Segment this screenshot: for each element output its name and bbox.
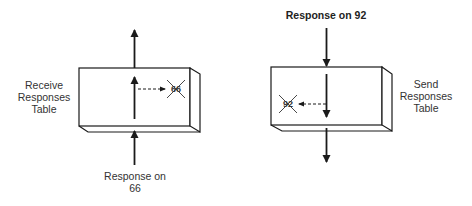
receive-responses-table-label: Receive Responses Table bbox=[14, 79, 74, 115]
left-incoming-label: Response on 66 bbox=[94, 170, 176, 194]
label-line: Send bbox=[396, 78, 456, 90]
receive-responses-table-box bbox=[79, 68, 200, 132]
label-line: Table bbox=[14, 103, 74, 115]
left-crossed-entry: 66 bbox=[166, 83, 186, 95]
label-line: Responses bbox=[396, 90, 456, 102]
label-line: Receive bbox=[14, 79, 74, 91]
right-crossed-entry: 92 bbox=[278, 98, 298, 110]
send-responses-table-label: Send Responses Table bbox=[396, 78, 456, 114]
right-incoming-label: Response on 92 bbox=[276, 9, 376, 21]
label-line: Response on bbox=[94, 170, 176, 182]
label-line: 66 bbox=[94, 182, 176, 194]
label-line: Table bbox=[396, 102, 456, 114]
label-line: Responses bbox=[14, 91, 74, 103]
